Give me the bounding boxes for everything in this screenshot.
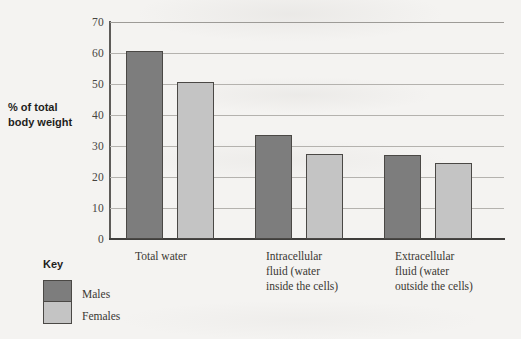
x-category-label-3: Extracellularfluid (wateroutside the cel… — [395, 249, 473, 295]
x-category-label-1-line-1: Total water — [135, 249, 187, 264]
x-category-label-2-line-1: Intracellular — [266, 249, 338, 264]
x-category-label-2-line-2: fluid (water — [266, 264, 338, 279]
bar-males-group-1 — [126, 51, 163, 239]
y-tick-70: 70 — [92, 16, 104, 28]
y-tick-40: 40 — [92, 109, 104, 121]
legend-swatch-box — [43, 280, 72, 324]
y-tick-20: 20 — [92, 171, 104, 183]
x-category-label-3-line-3: outside the cells) — [395, 279, 473, 294]
legend-swatch-males — [44, 281, 71, 302]
x-category-label-2-line-3: inside the cells) — [266, 279, 338, 294]
bar-females-group-1 — [177, 82, 214, 239]
plot-area — [110, 22, 504, 239]
x-category-label-1: Total water — [135, 249, 187, 264]
legend-swatch-females — [44, 302, 71, 323]
chart-page: % of total body weight 706050403020100 K… — [0, 0, 521, 339]
y-tick-0: 0 — [98, 233, 104, 245]
legend-title: Key — [43, 258, 63, 270]
gridline-70 — [110, 22, 504, 23]
bar-females-group-3 — [435, 163, 472, 239]
x-category-label-3-line-1: Extracellular — [395, 249, 473, 264]
gridline-60 — [110, 53, 504, 54]
legend-label-females: Females — [82, 310, 120, 322]
y-tick-60: 60 — [92, 47, 104, 59]
gridline-30 — [110, 146, 504, 147]
y-axis-label-line1: % of total — [8, 101, 58, 113]
x-category-label-3-line-2: fluid (water — [395, 264, 473, 279]
gridline-40 — [110, 115, 504, 116]
y-tick-50: 50 — [92, 78, 104, 90]
bar-males-group-3 — [384, 155, 421, 239]
y-tick-10: 10 — [92, 202, 104, 214]
legend-label-males: Males — [82, 288, 110, 300]
bar-females-group-2 — [306, 154, 343, 239]
gridline-50 — [110, 84, 504, 85]
x-category-label-2: Intracellularfluid (waterinside the cell… — [266, 249, 338, 295]
bar-males-group-2 — [255, 135, 292, 239]
legend: Key — [43, 258, 63, 276]
y-tick-30: 30 — [92, 140, 104, 152]
